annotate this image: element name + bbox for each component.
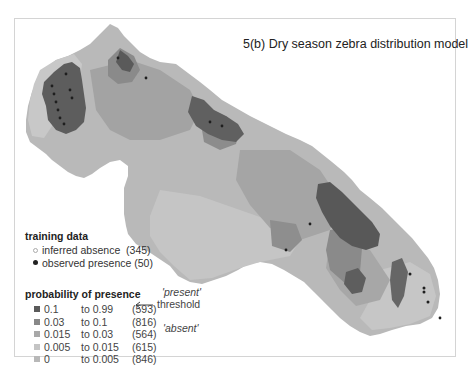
probability-header: probability of presence: [25, 288, 141, 300]
legend-observed-presence: observed presence (50): [25, 257, 153, 270]
filled-circle-icon: [33, 260, 38, 265]
legend-class-4: 0.005 to 0.015 (615): [25, 341, 141, 354]
legend-class-5: 0 to 0.005 (846): [25, 353, 141, 366]
threshold-arrow-icon: [134, 301, 154, 309]
map-title: 5(b) Dry season zebra distribution model: [243, 37, 468, 51]
legend-class-1: 0.1 to 0.99 (593): [25, 303, 141, 316]
absent-label: 'absent': [163, 322, 199, 334]
swatch-icon: [34, 356, 40, 362]
threshold-label: threshold: [157, 298, 200, 310]
swatch-icon: [34, 319, 40, 325]
swatch-icon: [34, 344, 40, 350]
legend-inferred-absence: inferred absence (345): [25, 244, 153, 257]
training-data-legend: training data inferred absence (345) obs…: [25, 230, 153, 269]
legend-class-2: 0.03 to 0.1 (816): [25, 316, 141, 329]
swatch-icon: [34, 306, 40, 312]
present-label: 'present': [162, 286, 201, 298]
training-data-header: training data: [25, 230, 153, 242]
open-circle-icon: [33, 248, 38, 253]
legend-class-3: 0.015 to 0.03 (564): [25, 328, 141, 341]
swatch-icon: [34, 331, 40, 337]
probability-legend: probability of presence 0.1 to 0.99 (593…: [25, 288, 141, 366]
